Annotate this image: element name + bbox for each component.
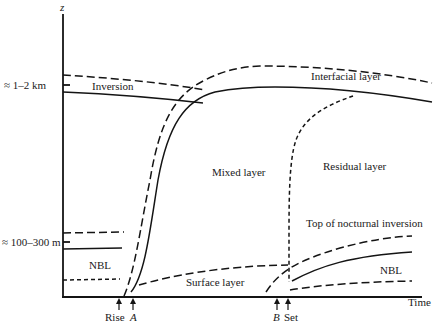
z-axis-label: z bbox=[59, 1, 65, 13]
time-marker-a: A bbox=[129, 311, 137, 323]
tick-label-100-300m: ≈ 100–300 m bbox=[2, 236, 61, 248]
mixed-layer-top-solid bbox=[131, 87, 432, 292]
tick-label-1-2km: ≈ 1–2 km bbox=[4, 79, 47, 91]
nbl-left-bottom-dashed bbox=[63, 279, 120, 280]
nbl-left-label: NBL bbox=[89, 259, 111, 271]
arrow-a bbox=[130, 298, 136, 310]
inversion-top-dashed bbox=[63, 75, 205, 90]
interfacial-top-dashed bbox=[124, 66, 432, 296]
arrow-set bbox=[285, 298, 291, 310]
nbl-left-solid bbox=[63, 248, 122, 249]
residual-layer-label: Residual layer bbox=[323, 160, 387, 172]
time-axis-label: Time bbox=[408, 296, 431, 308]
nbl-right-bottom-dashed bbox=[290, 281, 412, 290]
arrow-b bbox=[274, 298, 280, 310]
arrow-rise bbox=[116, 298, 122, 310]
time-marker-set: Set bbox=[284, 311, 298, 323]
time-marker-rise: Rise bbox=[105, 311, 125, 323]
nbl-left-top-dashed bbox=[63, 232, 124, 233]
surface-layer-label: Surface layer bbox=[186, 276, 245, 288]
inversion-label: Inversion bbox=[92, 80, 134, 92]
time-marker-b: B bbox=[273, 311, 280, 323]
nbl-right-label: NBL bbox=[380, 264, 402, 276]
interfacial-layer-label: Interfacial layer bbox=[311, 70, 381, 82]
residual-layer-boundary bbox=[289, 96, 353, 282]
boundary-layer-diagram: z Time ≈ 1–2 km ≈ 100–300 m Inversion In… bbox=[0, 0, 440, 327]
diagram-canvas: z Time ≈ 1–2 km ≈ 100–300 m Inversion In… bbox=[0, 0, 440, 327]
mixed-layer-label: Mixed layer bbox=[212, 166, 266, 178]
top-nocturnal-inversion-label: Top of nocturnal inversion bbox=[306, 217, 423, 229]
